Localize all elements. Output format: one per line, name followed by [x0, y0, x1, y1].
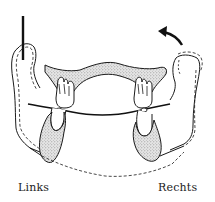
- mandible-lower-border-dashed: [42, 152, 184, 176]
- right-ramus-dashed-inner: [178, 60, 180, 74]
- mandible-diagram: Links Rechts: [0, 0, 215, 202]
- left-ramus-top: [18, 44, 40, 88]
- label-right: Rechts: [158, 182, 197, 193]
- rotation-arrow-shaft: [164, 32, 182, 45]
- right-ramus-inner-edge: [170, 58, 176, 100]
- diagram-canvas: [0, 0, 215, 202]
- right-angle-connector: [160, 146, 184, 156]
- right-ramus-outline: [170, 55, 200, 150]
- label-left: Links: [18, 182, 49, 193]
- rotation-arrow-head: [158, 26, 167, 37]
